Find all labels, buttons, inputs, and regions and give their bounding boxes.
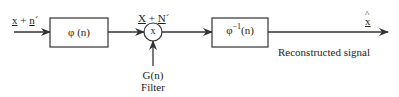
filter-name: G(n) — [133, 69, 173, 81]
inverse-exponent: −1 — [233, 22, 242, 31]
transformed-signal-label: X + N´ — [138, 12, 169, 24]
inverse-phi-block-label: φ−1(n) — [212, 24, 268, 36]
output-caption: Reconstructed signal — [278, 46, 370, 58]
prime-mark: ´ — [166, 12, 170, 24]
plus-sign: + — [146, 12, 158, 24]
transformed-n: N — [158, 12, 166, 24]
phi-block-label: φ (n) — [50, 26, 108, 38]
filter-caption: Filter — [133, 81, 173, 93]
transformed-x: X — [138, 12, 146, 24]
multiplier-symbol: x — [144, 25, 162, 36]
block-argument: (n) — [241, 24, 254, 36]
prime-mark: ´ — [35, 14, 39, 26]
output-symbol: x — [365, 15, 371, 27]
input-label: x + n´ — [12, 14, 38, 26]
plus-sign: + — [18, 14, 30, 26]
